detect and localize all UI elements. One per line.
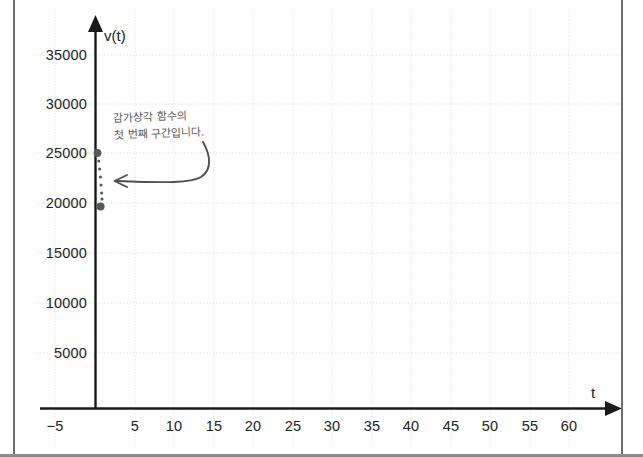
x-tick-label-45: 45 bbox=[443, 418, 460, 434]
chart-page: 35000 30000 25000 20000 15000 10000 5000… bbox=[0, 0, 643, 457]
plot-area: 35000 30000 25000 20000 15000 10000 5000… bbox=[15, 0, 621, 454]
x-tick-label-5: 5 bbox=[131, 418, 139, 434]
y-tick-label-10000: 10000 bbox=[15, 295, 87, 311]
x-tick-label-10: 10 bbox=[166, 418, 183, 434]
x-axis-title: t bbox=[591, 384, 595, 401]
y-tick-label-20000: 20000 bbox=[15, 195, 87, 211]
y-tick-label-30000: 30000 bbox=[15, 96, 87, 112]
x-tick-label-50: 50 bbox=[482, 418, 499, 434]
x-tick-label-20: 20 bbox=[245, 418, 262, 434]
y-tick-label-5000: 5000 bbox=[15, 345, 87, 361]
y-tick-label-15000: 15000 bbox=[15, 245, 87, 261]
y-tick-label-25000: 25000 bbox=[15, 145, 87, 161]
x-tick-label-60: 60 bbox=[561, 418, 578, 434]
x-tick-label-40: 40 bbox=[403, 418, 420, 434]
x-tick-label--5: −5 bbox=[47, 418, 64, 434]
y-axis-title: v(t) bbox=[104, 27, 126, 44]
x-tick-label-55: 55 bbox=[522, 418, 539, 434]
page-border-right bbox=[621, 0, 623, 457]
x-tick-label-35: 35 bbox=[364, 418, 381, 434]
x-tick-label-30: 30 bbox=[324, 418, 341, 434]
x-tick-label-15: 15 bbox=[206, 418, 223, 434]
x-tick-label-25: 25 bbox=[285, 418, 302, 434]
handwritten-note: 감가상각 함수의 첫 번째 구간입니다. bbox=[113, 107, 205, 144]
annotation-arrow bbox=[15, 0, 621, 454]
y-tick-label-35000: 35000 bbox=[15, 47, 87, 63]
